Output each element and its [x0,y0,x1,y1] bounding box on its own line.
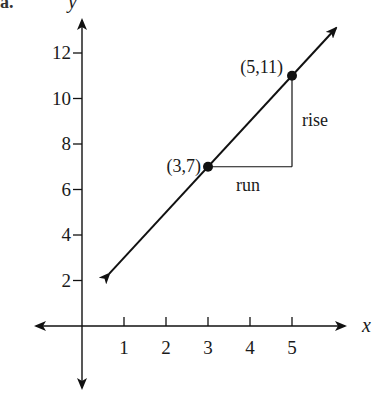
rise-label: rise [302,110,328,130]
line-y-equals-2x-plus-1 [109,28,336,274]
x-tick-label: 3 [203,337,213,358]
x-tick-label: 4 [245,337,255,358]
y-tick-label: 12 [52,42,71,63]
x-ticks: 12345 [119,317,297,358]
point-label-3-7: (3,7) [167,156,202,177]
run-label: run [236,175,260,195]
y-tick-label: 8 [62,133,72,154]
y-tick-label: 2 [62,270,72,291]
axes [36,20,345,388]
slope-chart: x y 12345 24681012 run rise (3,7) (5,11) [0,0,374,397]
y-tick-label: 6 [62,179,72,200]
y-ticks: 24681012 [52,42,82,291]
y-tick-label: 4 [62,224,72,245]
point-5-11 [287,71,297,81]
y-axis-label: y [66,0,77,13]
x-axis-label: x [361,314,371,336]
x-tick-label: 2 [161,337,171,358]
y-tick-label: 10 [52,88,71,109]
point-3-7 [203,162,213,172]
x-tick-label: 5 [287,337,297,358]
x-tick-label: 1 [119,337,129,358]
point-label-5-11: (5,11) [240,57,283,78]
